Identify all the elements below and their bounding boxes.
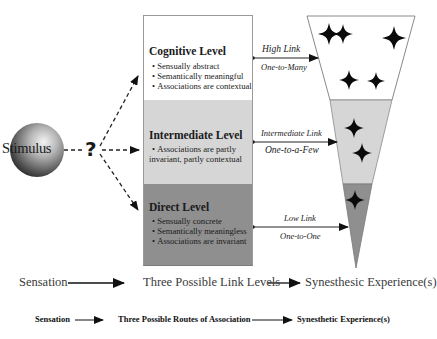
flow1-sensation: Sensation: [19, 275, 68, 290]
low-link-ratio: One-to-One: [280, 231, 321, 241]
direct-level-list: Sensually concrete Semantically meaningl…: [152, 216, 247, 246]
direct-level-box: Direct Level Sensually concrete Semantic…: [143, 184, 253, 266]
intermediate-level-title: Intermediate Level: [149, 129, 243, 141]
low-link-label: Low Link: [284, 213, 316, 223]
direct-level-title: Direct Level: [149, 201, 209, 213]
high-link-ratio: One-to-Many: [261, 62, 307, 72]
flow2-synesthetic-experience: Synesthetic Experience(s): [297, 314, 390, 324]
cognitive-level-title: Cognitive Level: [149, 45, 226, 57]
intermediate-level-box: Intermediate Level • Associations are pa…: [143, 100, 253, 184]
list-item: • Associations are partly: [152, 144, 242, 154]
list-item: Semantically meaningful: [152, 71, 252, 81]
list-item: Semantically meaningless: [152, 226, 247, 236]
route-arrow-cognitive: [100, 76, 138, 146]
flow1-link-levels: Three Possible Link Levels: [143, 275, 280, 290]
intermediate-link-ratio: One-to-a-Few: [265, 145, 319, 155]
flow1-synesthesic-experience: Synesthesic Experience(s): [305, 275, 437, 290]
cognitive-level-box: Cognitive Level Sensually abstract Seman…: [143, 15, 253, 100]
list-item: Sensually concrete: [152, 216, 247, 226]
cognitive-level-list: Sensually abstract Semantically meaningf…: [152, 61, 252, 91]
funnel-section-high: [307, 16, 415, 100]
high-link-label: High Link: [262, 44, 300, 54]
funnel-section-intermediate: [330, 100, 392, 184]
intermediate-link-label: Intermediate Link: [261, 128, 322, 138]
flow2-routes-of-association: Three Possible Routes of Association: [118, 314, 251, 324]
route-arrow-direct: [100, 154, 138, 210]
question-mark: ?: [85, 137, 97, 161]
list-item: Sensually abstract: [152, 61, 252, 71]
flow2-sensation: Sensation: [35, 314, 70, 324]
intermediate-level-list: • Associations are partly invariant, par…: [152, 144, 242, 164]
list-item-continuation: invariant, partly contextual: [149, 154, 242, 164]
list-item: Associations are contextual: [152, 81, 252, 91]
stimulus-label: Stimulus: [2, 140, 51, 157]
list-item: Associations are invariant: [152, 236, 247, 246]
